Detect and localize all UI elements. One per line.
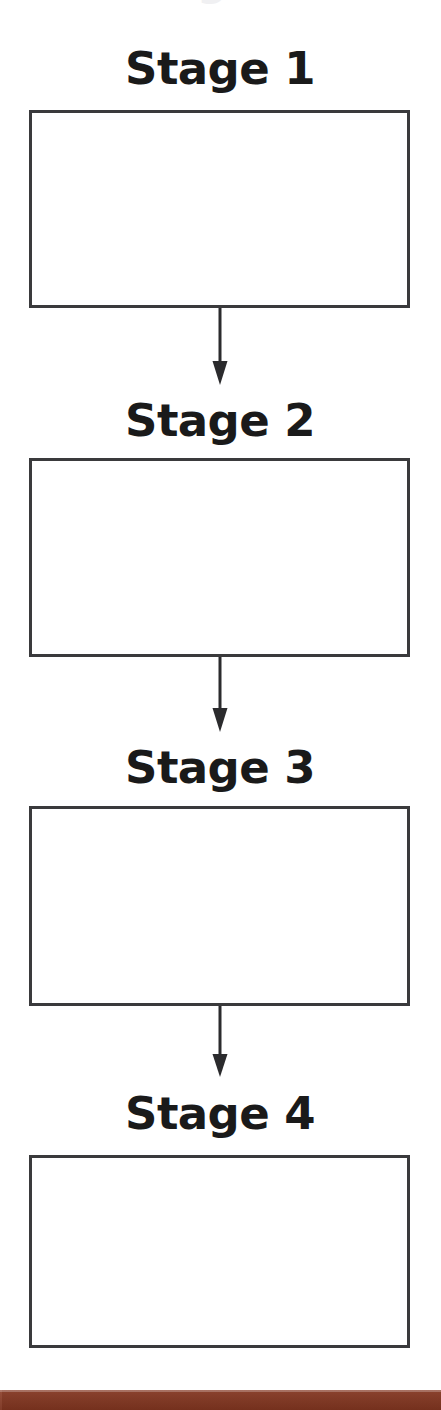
stage-box-3[interactable] — [29, 806, 410, 1006]
footer-accent-bar-fill — [0, 1390, 441, 1410]
connector-arrow-2 — [205, 657, 235, 733]
stage-label-4: Stage 4 — [20, 1087, 420, 1141]
stage-box-4[interactable] — [29, 1155, 410, 1348]
stage-box-2[interactable] — [29, 458, 410, 657]
connector-arrow-3 — [205, 1006, 235, 1078]
footer-accent-bar — [0, 1390, 441, 1410]
footer-accent-bar-edge — [0, 1390, 441, 1392]
stage-flow-diagram: Stage 1 Stage 2 Stage 3 Stage 4 — [0, 0, 441, 1390]
stage-label-2: Stage 2 — [20, 394, 420, 448]
connector-arrow-1 — [205, 308, 235, 386]
stage-label-3: Stage 3 — [20, 741, 420, 795]
stage-box-1[interactable] — [29, 110, 410, 308]
stage-label-1: Stage 1 — [20, 42, 420, 96]
